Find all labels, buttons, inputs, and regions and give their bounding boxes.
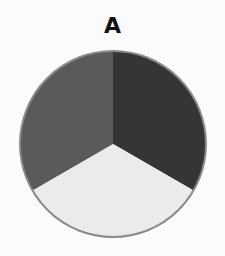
pie-chart (0, 0, 225, 256)
